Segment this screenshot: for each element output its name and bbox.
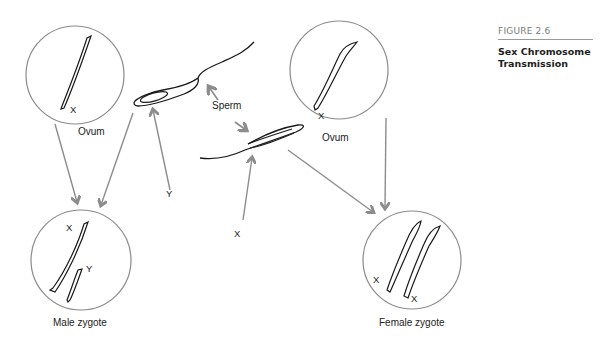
sperm-y-label: Y	[166, 188, 172, 199]
sperm-top	[134, 42, 254, 106]
male-y-chromosome	[67, 269, 82, 302]
male-zygote	[31, 210, 131, 310]
male-x-label: X	[66, 222, 72, 233]
ovum-right-x-chromosome	[314, 42, 357, 110]
female-x1-label: X	[373, 274, 379, 285]
ovum-right-label: Ovum	[322, 132, 349, 143]
female-x2-label: X	[411, 293, 417, 304]
arrow-y-label-to-sperm	[153, 110, 170, 190]
ovum-left-x-chromosome	[61, 36, 91, 109]
arrow-ovum-to-male	[55, 124, 77, 202]
female-x-chromosome-2	[404, 226, 440, 298]
ovum-left-x-label: X	[70, 104, 76, 115]
male-zygote-label: Male zygote	[53, 317, 107, 328]
arrow-sperm-y-to-male	[101, 113, 133, 205]
sperm-indicator-down	[235, 122, 246, 130]
male-zygote-circle	[31, 210, 131, 310]
female-x-chromosome-1	[387, 221, 421, 292]
sperm-indicator-up	[209, 87, 218, 100]
female-zygote-label: Female zygote	[379, 317, 445, 328]
sperm-x-label: X	[234, 228, 240, 239]
sperm-label: Sperm	[212, 100, 241, 111]
sperm-bottom	[200, 125, 303, 159]
ovum-right-x-label: X	[318, 110, 324, 121]
male-y-label: Y	[86, 263, 92, 274]
arrow-sperm-x-to-female	[288, 150, 373, 212]
arrow-x-label-to-sperm	[243, 158, 252, 220]
ovum-left-label: Ovum	[78, 126, 105, 137]
sex-chromosome-diagram	[0, 0, 601, 354]
arrow-ovum-to-female	[385, 118, 386, 208]
ovum-right	[290, 21, 388, 119]
sperm-top-tail	[134, 42, 254, 106]
